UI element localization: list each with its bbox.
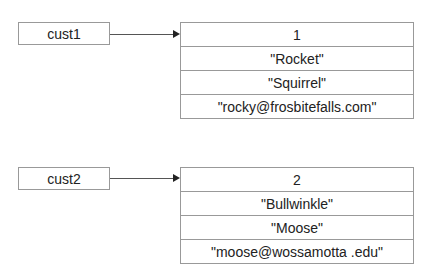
record-cust2: 2 "Bullwinkle" "Moose" "moose@wossamotta… [180,167,414,264]
record-field-last-name: "Squirrel" [181,70,413,94]
record-cust1: 1 "Rocket" "Squirrel" "rocky@frosbitefal… [180,22,414,119]
record-field-last-name: "Moose" [181,215,413,239]
record-field-first-name: "Bullwinkle" [181,191,413,215]
record-field-first-name: "Rocket" [181,46,413,70]
arrowhead-icon [173,30,180,38]
record-field-id: 1 [181,23,413,46]
record-field-email: "rocky@frosbitefalls.com" [181,94,413,118]
record-field-email: "moose@wossamotta .edu" [181,239,413,263]
record-field-id: 2 [181,168,413,191]
reference-arrow-cust1 [110,34,178,35]
variable-cust1: cust1 [18,22,110,45]
reference-arrow-cust2 [110,178,178,179]
variable-cust2: cust2 [18,167,110,190]
arrowhead-icon [173,174,180,182]
